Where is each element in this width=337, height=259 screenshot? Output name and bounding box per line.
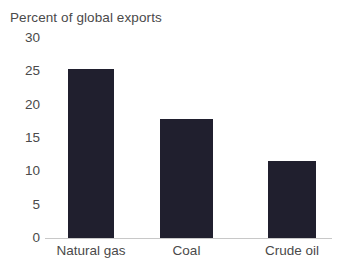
y-axis-tick-0: 0: [6, 231, 40, 245]
y-axis-tick-30: 30: [6, 31, 40, 45]
bar-chart: Percent of global exports 302520151050 N…: [0, 0, 337, 259]
category-label-1: Coal: [173, 243, 201, 258]
category-label-2: Crude oil: [265, 243, 319, 258]
bar-natural-gas: [68, 69, 114, 238]
bar-crude-oil: [268, 161, 316, 238]
y-axis-tick-5: 5: [6, 198, 40, 212]
y-axis-tick-25: 25: [6, 65, 40, 79]
category-label-0: Natural gas: [56, 243, 125, 258]
x-axis-baseline: [45, 238, 332, 239]
y-axis-tick-15: 15: [6, 131, 40, 145]
y-axis-tick-20: 20: [6, 98, 40, 112]
plot-area: 302520151050 Natural gasCoalCrude oil: [0, 0, 337, 259]
bar-coal: [160, 119, 213, 238]
y-axis-tick-10: 10: [6, 165, 40, 179]
